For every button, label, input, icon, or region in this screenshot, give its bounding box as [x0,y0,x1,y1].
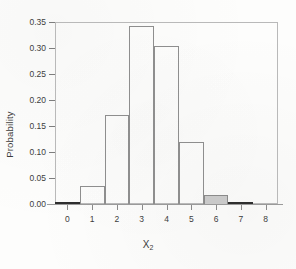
x-axis-tick-label: 5 [181,214,201,224]
figure: Probability 0.000.050.100.150.200.250.30… [0,0,296,269]
x-axis-tick-label: 1 [82,214,102,224]
y-axis-tick-labels: 0.000.050.100.150.200.250.300.35 [16,0,46,269]
y-axis-tick-label: 0.10 [18,147,46,157]
y-axis-tick-label: 0.35 [18,17,46,27]
y-axis-tick-label: 0.00 [18,199,46,209]
y-axis-tick-label: 0.25 [18,69,46,79]
y-axis-tick-label: 0.05 [18,173,46,183]
y-axis-tick-label: 0.20 [18,95,46,105]
x-axis-tick-mark [117,205,118,210]
x-axis-tick-label: 4 [157,214,177,224]
x-axis-tick-mark [241,205,242,210]
x-axis-title-subscript: 2 [149,244,153,251]
x-axis-tick-mark [142,205,143,210]
x-axis-tick-mark [92,205,93,210]
x-axis-tick-label: 6 [206,214,226,224]
x-axis-tick-label: 3 [132,214,152,224]
x-axis-tick-label: 7 [231,214,251,224]
x-axis-tick-mark [216,205,217,210]
x-axis-tick-label: 2 [107,214,127,224]
plot-area-frame [55,22,278,204]
x-axis-tick-mark [167,205,168,210]
x-axis-tick-label: 8 [256,214,276,224]
y-axis-tick-label: 0.30 [18,43,46,53]
x-axis-tick-mark [67,205,68,210]
x-axis-tick-label: 0 [57,214,77,224]
x-axis-tick-mark [266,205,267,210]
x-axis-tick-mark [191,205,192,210]
y-axis-tick-label: 0.15 [18,121,46,131]
x-axis-title: X2 [0,239,296,251]
x-axis-line [47,204,283,205]
